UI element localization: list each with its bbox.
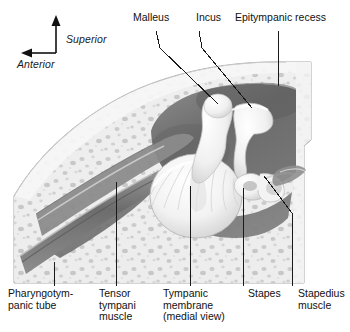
label-stapedius-muscle: Stapedius muscle [298,288,350,311]
leader-incus-a [199,31,202,48]
label-stapedius-line2: muscle [298,300,350,312]
label-incus: Incus [196,12,221,24]
label-pharyngotympanic-tube: Pharyngotym- panic tube [8,288,94,311]
figure-canvas: Superior Anterior Malleus Incus Epitympa… [0,0,350,332]
label-stapedius-line1: Stapedius [298,288,350,300]
label-epitympanic-recess: Epitympanic recess [235,12,326,24]
label-tympanic-membrane-line1: Tympanic [163,288,245,300]
label-tensor-tympani-muscle: Tensor tympani muscle [99,288,159,323]
label-tympanic-membrane: Tympanic membrane (medial view) [163,288,245,323]
anterior-axis-label: Anterior [17,58,55,70]
label-pharyngotympanic-tube-line2: panic tube [8,300,94,312]
label-pharyngotympanic-tube-line1: Pharyngotym- [8,288,94,300]
leader-malleus-a [156,31,160,48]
label-tensor-tympani-line1: Tensor [99,288,159,300]
label-stapes: Stapes [248,288,296,300]
superior-axis-label: Superior [66,33,107,45]
label-tensor-tympani-line3: muscle [99,311,159,323]
label-malleus: Malleus [133,12,169,24]
label-tympanic-membrane-line3: (medial view) [163,311,245,323]
orientation-compass: Superior Anterior [0,0,140,80]
